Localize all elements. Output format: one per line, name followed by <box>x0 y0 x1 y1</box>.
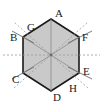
vertex-label-d: D <box>53 92 61 103</box>
point-label-h: H <box>69 83 77 94</box>
hexagon-diagram-canvas <box>0 0 103 110</box>
vertex-label-e: E <box>83 66 90 77</box>
vertex-label-c: C <box>12 74 19 85</box>
vertex-label-f: F <box>82 32 88 43</box>
vertex-label-a: A <box>55 8 63 19</box>
center-point <box>50 54 53 57</box>
point-label-g: G <box>27 22 35 33</box>
hexagon-figure: A G B F C E H D <box>0 0 103 110</box>
vertex-label-b: B <box>10 32 17 43</box>
